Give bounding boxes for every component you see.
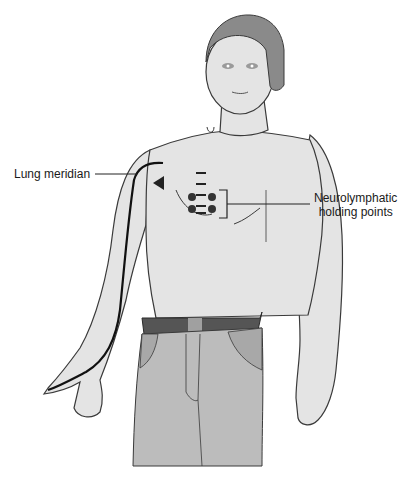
lung-meridian-label: Lung meridian <box>14 167 90 181</box>
body-figure <box>0 0 406 477</box>
neurolymphatic-label-line1: Neurolymphatic <box>314 191 397 205</box>
neurolymphatic-label: Neurolymphatic holding points <box>314 191 397 219</box>
suprasternal-notch <box>207 127 214 132</box>
neurolymphatic-label-line2: holding points <box>314 205 397 219</box>
right-arm <box>44 150 150 417</box>
